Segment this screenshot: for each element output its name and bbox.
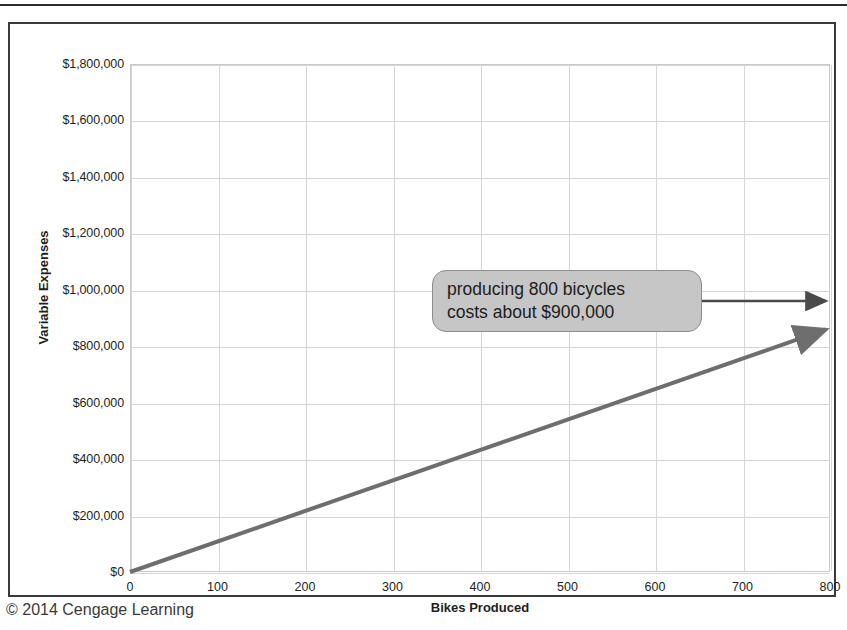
gridline-horizontal bbox=[131, 121, 829, 122]
y-tick-label: $200,000 bbox=[73, 509, 124, 523]
y-tick-label: $1,400,000 bbox=[62, 170, 124, 184]
gridline-vertical bbox=[219, 65, 220, 571]
x-tick-label: 0 bbox=[127, 580, 134, 594]
x-tick-label: 800 bbox=[820, 580, 841, 594]
y-tick-label: $1,800,000 bbox=[62, 57, 124, 71]
y-tick-label: $600,000 bbox=[73, 396, 124, 410]
x-tick-label: 500 bbox=[557, 580, 578, 594]
x-tick-label: 200 bbox=[295, 580, 316, 594]
copyright-credit: © 2014 Cengage Learning bbox=[6, 601, 194, 619]
figure-frame: $0$200,000$400,000$600,000$800,000$1,000… bbox=[8, 22, 836, 597]
gridline-vertical bbox=[831, 65, 832, 571]
x-axis-title: Bikes Produced bbox=[130, 600, 830, 615]
gridline-vertical bbox=[306, 65, 307, 571]
gridline-vertical bbox=[744, 65, 745, 571]
x-tick-label: 600 bbox=[645, 580, 666, 594]
gridline-vertical bbox=[394, 65, 395, 571]
y-tick-label: $0 bbox=[110, 565, 124, 579]
gridline-horizontal bbox=[131, 234, 829, 235]
callout-line-1: producing 800 bicycles bbox=[447, 278, 687, 301]
y-axis-title: Variable Expenses bbox=[36, 208, 51, 368]
y-tick-label: $1,200,000 bbox=[62, 226, 124, 240]
y-tick-label: $800,000 bbox=[73, 339, 124, 353]
gridline-horizontal bbox=[131, 65, 829, 66]
gridline-horizontal bbox=[131, 517, 829, 518]
y-tick-label: $1,000,000 bbox=[62, 283, 124, 297]
callout-line-2: costs about $900,000 bbox=[447, 301, 687, 324]
gridline-horizontal bbox=[131, 460, 829, 461]
page-top-rule bbox=[0, 4, 847, 6]
x-tick-label: 100 bbox=[207, 580, 228, 594]
gridline-horizontal bbox=[131, 404, 829, 405]
callout-annotation: producing 800 bicycles costs about $900,… bbox=[432, 270, 702, 332]
gridline-vertical bbox=[131, 65, 132, 571]
y-tick-label: $400,000 bbox=[73, 452, 124, 466]
gridline-horizontal bbox=[131, 178, 829, 179]
y-tick-label: $1,600,000 bbox=[62, 113, 124, 127]
x-axis-tick-labels: 0100200300400500600700800 bbox=[130, 580, 830, 598]
x-tick-label: 400 bbox=[470, 580, 491, 594]
gridline-horizontal bbox=[131, 573, 829, 574]
x-tick-label: 300 bbox=[382, 580, 403, 594]
x-tick-label: 700 bbox=[732, 580, 753, 594]
gridline-horizontal bbox=[131, 347, 829, 348]
